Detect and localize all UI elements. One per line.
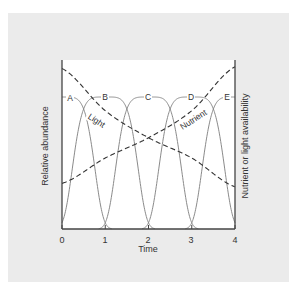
species-label-b: B [102,92,108,102]
plot-area [62,60,235,229]
species-label-e: E [224,92,230,102]
tick-label: 3 [188,235,193,245]
tick-label: 1 [102,235,107,245]
species-label-a: A [67,93,73,103]
x-axis-label: Time [138,244,158,254]
tick-label: 4 [232,235,237,245]
tick-label: 0 [59,235,64,245]
species-label-c: C [145,92,151,102]
chart: 0 1 2 3 4 Time Relative abundance Nutrie… [0,0,302,297]
right-axis-label: Nutrient or light availability [240,93,250,199]
left-axis-label: Relative abundance [40,106,50,186]
species-label-d: D [188,92,194,102]
